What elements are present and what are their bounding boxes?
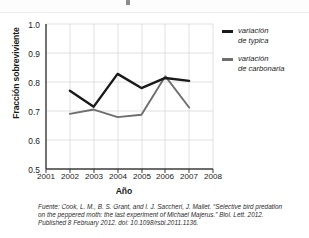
legend-label-typica-line2: de typica [238, 36, 308, 46]
caption-line-1: Fuente: Cook, L. M., B. S. Grant, and I.… [38, 203, 300, 211]
legend-label-typica-line1: variación [238, 26, 308, 36]
chart-legend: variación de typica variación de carbona… [222, 26, 308, 82]
caption-line-2: on the peppered moth: the last experimen… [38, 211, 300, 219]
figure-container: Fracción sobreviviente 1.0 0.9 0.8 0.7 0… [0, 0, 309, 238]
legend-swatch-typica [222, 30, 233, 33]
x-tick-label-2008: 2008 [198, 172, 228, 181]
legend-label-carbonaria-line2: de carbonaria [238, 64, 308, 74]
legend-item-carbonaria[interactable]: variación de carbonaria [222, 54, 308, 73]
caption-line-3: Published 8 February 2012. doi: 10.1098/… [38, 219, 300, 227]
cropped-title-fragment [126, 0, 130, 5]
series-line-typica [70, 74, 189, 107]
vertical-gridlines [70, 24, 213, 169]
legend-swatch-carbonaria [222, 58, 233, 60]
chart-plot-region: Fracción sobreviviente 1.0 0.9 0.8 0.7 0… [0, 12, 309, 198]
x-axis-title: Año [0, 186, 248, 196]
figure-caption: Fuente: Cook, L. M., B. S. Grant, and I.… [38, 203, 300, 227]
legend-label-carbonaria-line1: variación [238, 54, 308, 64]
legend-item-typica[interactable]: variación de typica [222, 26, 308, 45]
